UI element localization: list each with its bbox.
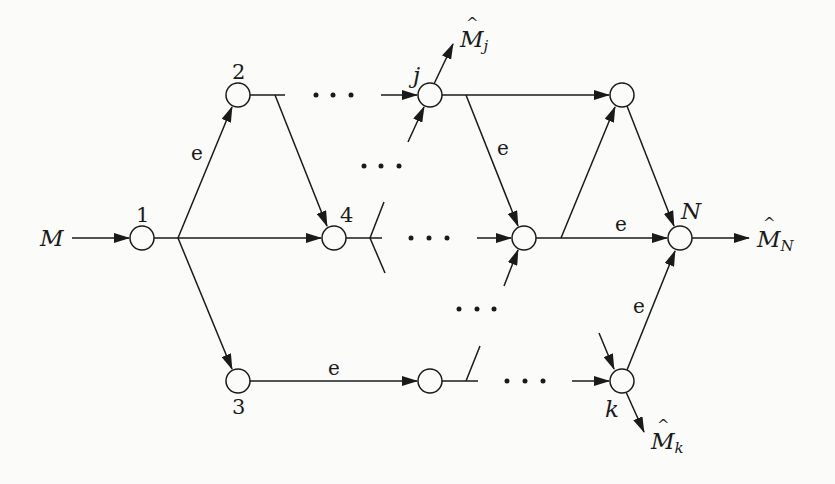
- node-j-label: j: [413, 64, 420, 87]
- output-j-label: Mj: [460, 28, 488, 54]
- node-3-label: 3: [232, 397, 245, 418]
- node-4-label: 4: [340, 205, 353, 226]
- node-2: [226, 83, 250, 107]
- node-N-label: N: [681, 200, 701, 223]
- node-bottom: [418, 369, 442, 393]
- edge-1-2: [178, 107, 232, 238]
- node-j: [418, 83, 442, 107]
- edge-label-m-N: e: [615, 214, 627, 234]
- node-1: [130, 226, 154, 250]
- edge-label-3-b: e: [328, 358, 340, 378]
- edge-output-j: [434, 44, 453, 84]
- edge-m-t: [561, 107, 615, 238]
- output-k-label: Mk: [651, 430, 684, 456]
- network-diagram: M 1 2 3 4 j N k e e e e e Mj MN Mk: [0, 0, 835, 484]
- output-N-label: MN: [757, 228, 794, 254]
- edge-label-j-m: e: [497, 138, 509, 158]
- node-4: [322, 226, 346, 250]
- node-k: [610, 369, 634, 393]
- node-2-label: 2: [232, 62, 245, 83]
- node-middle: [512, 226, 536, 250]
- node-3: [226, 369, 250, 393]
- node-k-label: k: [605, 398, 619, 421]
- node-top-right: [610, 83, 634, 107]
- edge-1-3: [178, 238, 232, 369]
- edge-j-m: [466, 95, 518, 226]
- node-1-label: 1: [136, 205, 149, 226]
- edge-2-4: [275, 95, 327, 226]
- edge-label-1-2: e: [191, 143, 203, 163]
- edge-output-k: [626, 392, 644, 432]
- node-N: [668, 226, 692, 250]
- edge-t-N: [627, 106, 674, 226]
- edge-label-k-N: e: [633, 296, 645, 316]
- source-label: M: [40, 227, 64, 250]
